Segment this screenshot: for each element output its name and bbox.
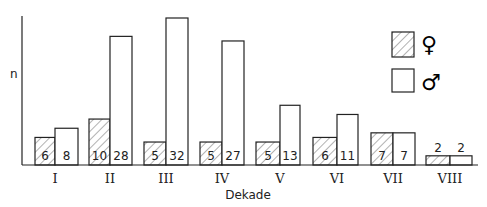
bar-value-male: 13 — [282, 149, 297, 163]
legend-female-swatch — [392, 32, 414, 57]
legend: ♀ ♂ — [392, 32, 441, 95]
bar-value-female: 5 — [207, 149, 215, 163]
bar-value-female: 6 — [41, 149, 49, 163]
bar-value-female: 2 — [434, 141, 442, 155]
bar-value-male: 28 — [113, 149, 128, 163]
x-tick-label: II — [105, 171, 115, 186]
bar-value-male: 2 — [457, 141, 465, 155]
y-axis-label: n — [10, 67, 18, 81]
x-tick-label: IV — [215, 171, 230, 186]
bar-value-female: 10 — [92, 149, 107, 163]
legend-male-symbol: ♂ — [421, 70, 441, 95]
bar-value-female: 7 — [378, 149, 386, 163]
x-axis-label: Dekade — [225, 188, 271, 202]
x-tick-label: VI — [329, 171, 345, 186]
legend-female-symbol: ♀ — [421, 32, 437, 57]
bar-chart: 6810285325275136117722 n Dekade IIIIIIIV… — [0, 0, 487, 207]
bar-female — [426, 156, 450, 165]
x-tick-label: V — [274, 171, 285, 186]
x-tick-label: III — [158, 171, 173, 186]
bar-value-female: 6 — [321, 149, 329, 163]
bar-value-male: 11 — [340, 149, 355, 163]
x-tick-label: VIII — [437, 171, 463, 186]
bar-value-male: 7 — [400, 149, 408, 163]
bar-male — [166, 18, 188, 165]
bar-value-female: 5 — [151, 149, 159, 163]
bar-male — [110, 36, 132, 165]
bar-value-male: 8 — [63, 149, 71, 163]
bar-male — [450, 156, 472, 165]
legend-male-swatch — [392, 69, 414, 92]
x-tick-label: I — [52, 171, 57, 186]
bar-value-male: 27 — [225, 149, 240, 163]
x-tick-labels: IIIIIIIVVVIVIIVIII — [52, 171, 462, 186]
x-tick-label: VII — [382, 171, 403, 186]
bar-value-female: 5 — [264, 149, 272, 163]
bar-male — [222, 41, 244, 165]
bar-value-male: 32 — [169, 149, 184, 163]
